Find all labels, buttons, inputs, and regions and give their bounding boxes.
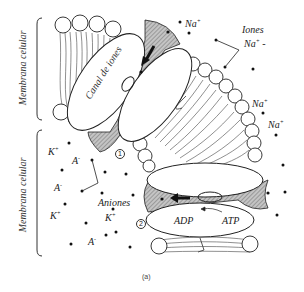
ion-channel [53, 21, 206, 153]
membrane-transport-diagram: Membrana celular Membrana celular Canal … [0, 0, 304, 292]
na-label-mid: Na+ [252, 98, 268, 109]
anions-label: Aniones [98, 198, 130, 208]
k-label-charge: + [57, 210, 61, 216]
na-label-charge: + [264, 98, 268, 104]
a-label-1: A- [72, 155, 80, 166]
k-label-charge: + [55, 146, 59, 152]
upper-membrane-label: Membrana celular [18, 23, 28, 113]
na-label-base: Na [268, 119, 280, 130]
atp-label: ATP [222, 216, 239, 226]
lower-membrane-label: Membrana celular [18, 150, 28, 240]
a-label-3: A- [88, 236, 96, 247]
ions-group-title: Iones [242, 25, 264, 35]
k-label-base: K [50, 210, 57, 221]
figure-caption: (a) [142, 273, 151, 280]
a-label-charge: - [94, 236, 96, 242]
k-label-base: K [105, 212, 112, 223]
k-label-charge: + [112, 212, 116, 218]
na-label-top: Na+ [185, 18, 201, 29]
ion-channel-marker: 1 [115, 149, 125, 159]
na-label-base: Na [185, 18, 197, 29]
ions-group-connector [216, 40, 239, 67]
na-label-charge: + [197, 18, 201, 24]
upper-membrane-bracket [37, 18, 42, 120]
na-label-base: Na [252, 98, 264, 109]
a-label-charge: - [60, 182, 62, 188]
anions-group-connector [82, 160, 98, 191]
ions-group-species: Na+ - [244, 38, 266, 49]
k-label-1: K+ [48, 146, 59, 157]
lower-membrane-bracket [37, 130, 42, 256]
a-label-charge: - [78, 155, 80, 161]
ions-group-suffix: - [260, 38, 266, 49]
na-label-low: Na+ [268, 119, 284, 130]
k-label-base: K [48, 146, 55, 157]
a-label-2: A- [54, 182, 62, 193]
pump-marker: 2 [136, 219, 146, 229]
ions-group-base: Na [244, 38, 256, 49]
k-label-3: K+ [105, 212, 116, 223]
k-label-2: K+ [50, 210, 61, 221]
lower-lipid-tails [160, 237, 250, 252]
na-label-charge: + [280, 119, 284, 125]
adp-label: ADP [174, 216, 193, 226]
